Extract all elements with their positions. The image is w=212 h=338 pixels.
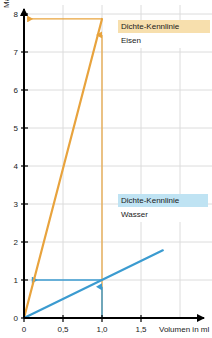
legend-eisen: Dichte-Kennlinie Eisen [118,20,210,48]
y-tick-label-5: 5 [14,124,19,133]
y-tick-label-4: 4 [14,162,19,171]
chart-canvas: 0 1 2 3 4 5 6 7 8 0 0,5 1,0 1,5 Volumen … [0,0,212,338]
density-chart: 0 1 2 3 4 5 6 7 8 0 0,5 1,0 1,5 Volumen … [0,0,212,338]
x-axis-title: Volumen in ml [159,325,209,334]
y-axis-tick-labels: 0 1 2 3 4 5 6 7 8 [14,10,19,323]
legend-eisen-title: Dichte-Kennlinie [118,20,210,33]
y-tick-label-1: 1 [14,276,19,285]
x-tick-label-1.5: 1,5 [135,325,147,334]
y-tick-label-6: 6 [14,86,19,95]
y-tick-label-7: 7 [14,48,19,57]
x-tick-label-0.5: 0,5 [57,325,69,334]
series-line-wasser [24,250,163,318]
data-series [24,19,163,318]
legend-wasser-subtitle: Wasser [118,207,208,222]
y-tick-label-8: 8 [14,10,19,19]
y-axis-title: Masse in g [2,0,11,8]
legend-wasser-title: Dichte-Kennlinie [118,194,208,207]
y-tick-label-0: 0 [14,314,19,323]
x-tick-label-0: 0 [22,325,27,334]
x-tick-label-1.0: 1,0 [96,325,108,334]
y-tick-label-3: 3 [14,200,19,209]
y-tick-label-2: 2 [14,238,19,247]
legend-eisen-subtitle: Eisen [118,33,210,48]
legend-wasser: Dichte-Kennlinie Wasser [118,194,208,222]
x-axis-tick-labels: 0 0,5 1,0 1,5 [22,325,147,334]
